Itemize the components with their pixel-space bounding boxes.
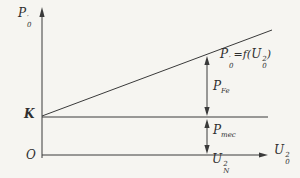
y-axis-label: P′0 xyxy=(18,7,32,30)
curve-label-close-paren: ) xyxy=(267,48,271,61)
x-axis-label-sub: 0 xyxy=(285,159,289,166)
plot-canvas xyxy=(0,0,300,178)
function-line xyxy=(42,30,272,116)
x-axis-label: U20 xyxy=(274,144,290,167)
p-mec-label: Pmec xyxy=(213,124,236,139)
x-tick-label: U2N xyxy=(212,153,229,176)
loss-separation-plot: P′0 P′0=f(U20) PFe Pmec K O U2N U20 xyxy=(0,0,300,178)
k-point-label: K xyxy=(24,108,34,120)
p-mec-arrowhead-down-icon xyxy=(204,145,209,154)
p-fe-label-sub: Fe xyxy=(221,87,230,95)
origin-label: O xyxy=(26,149,36,161)
x-axis-arrowhead-icon xyxy=(259,152,268,157)
y-axis-label-sub: 0 xyxy=(27,22,31,29)
p-fe-label: PFe xyxy=(213,80,230,95)
x-tick-label-sub: N xyxy=(223,168,229,175)
p-mec-arrowhead-up-icon xyxy=(204,119,209,128)
p-fe-arrowhead-up-icon xyxy=(204,56,209,65)
curve-label-equals: =f( xyxy=(234,48,252,61)
p-fe-arrowhead-down-icon xyxy=(204,107,209,116)
curve-label: P′0=f(U20) xyxy=(220,48,271,71)
y-axis-arrowhead-icon xyxy=(39,7,44,17)
p-mec-label-sub: mec xyxy=(221,131,236,139)
